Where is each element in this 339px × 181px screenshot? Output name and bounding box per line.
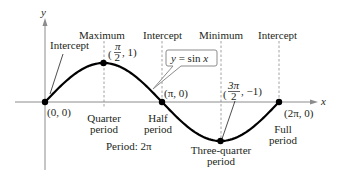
max-paren-open: ( — [108, 48, 112, 61]
half-period-label-2: period — [144, 123, 173, 135]
max-coordinate-rest: , 1) — [122, 46, 137, 59]
y-axis-arrow-icon — [43, 18, 48, 26]
origin-coordinate-label: (0, 0) — [47, 106, 71, 119]
callout-x: x — [202, 52, 208, 64]
intercept-leader-line — [50, 54, 63, 94]
quarter-period-label-2: period — [90, 123, 119, 135]
maximum-coordinate-label: ( π 2 , 1) — [108, 40, 137, 63]
callout-text: y = sin x — [170, 52, 208, 64]
pi-coordinate-label: (π, 0) — [164, 87, 188, 100]
intercept-label-2pi: Intercept — [258, 29, 297, 41]
full-period-label-2: period — [269, 134, 298, 146]
minimum-coordinate-label: ( 3π 2 , −1) — [223, 79, 262, 102]
max-fraction-denominator: 2 — [115, 51, 121, 63]
sine-graph-figure: y x Intercept Maximum Intercept Minimum … — [0, 0, 339, 181]
minimum-label: Minimum — [199, 29, 243, 41]
function-callout: y = sin x — [153, 50, 217, 89]
two-pi-coordinate-label: (2π, 0) — [284, 107, 314, 120]
key-point-0 — [42, 99, 48, 105]
callout-eq: = sin — [176, 52, 203, 64]
key-point-2 — [159, 99, 165, 105]
three-quarter-leader-line — [222, 101, 235, 139]
y-axis-label: y — [40, 6, 46, 18]
x-axis-label: x — [320, 95, 326, 107]
intercept-label-pi: Intercept — [143, 29, 182, 41]
sine-graph: y x Intercept Maximum Intercept Minimum … — [0, 0, 339, 181]
period-annotation: Period: 2π — [106, 140, 152, 152]
key-point-1 — [100, 60, 106, 66]
x-axis-arrow-icon — [310, 100, 318, 105]
min-coordinate-rest: , −1) — [241, 85, 262, 98]
min-paren-open: ( — [223, 88, 227, 101]
three-quarter-period-label-2: period — [207, 155, 236, 167]
min-fraction-denominator: 2 — [231, 90, 237, 102]
key-point-4 — [276, 99, 282, 105]
